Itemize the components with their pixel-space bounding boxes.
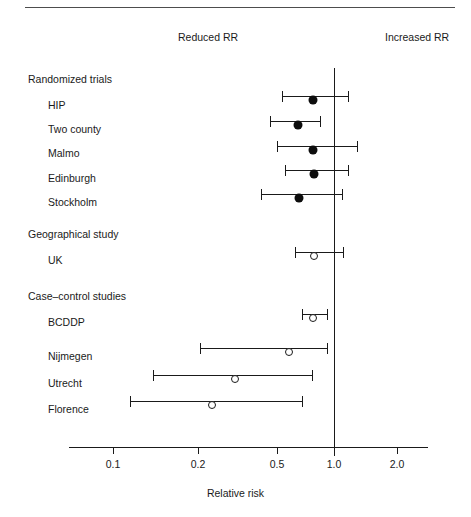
confidence-interval-cap bbox=[130, 396, 131, 407]
confidence-interval-cap bbox=[348, 165, 349, 176]
study-label: BCDDP bbox=[48, 316, 85, 328]
point-estimate-marker bbox=[309, 314, 317, 322]
group-heading: Geographical study bbox=[28, 228, 118, 240]
point-estimate-marker bbox=[231, 375, 239, 383]
study-label: Nijmegen bbox=[48, 350, 92, 362]
point-estimate-marker bbox=[208, 401, 216, 409]
confidence-interval-cap bbox=[153, 370, 154, 381]
confidence-interval-cap bbox=[327, 309, 328, 320]
confidence-interval-cap bbox=[200, 343, 201, 354]
confidence-interval-cap bbox=[295, 247, 296, 258]
point-estimate-marker bbox=[294, 121, 303, 130]
x-axis-tick-label: 2.0 bbox=[390, 458, 405, 470]
confidence-interval-cap bbox=[343, 247, 344, 258]
study-label: Edinburgh bbox=[48, 172, 96, 184]
confidence-interval-cap bbox=[327, 343, 328, 354]
study-label: Two county bbox=[48, 123, 101, 135]
point-estimate-marker bbox=[309, 96, 318, 105]
confidence-interval-bar bbox=[295, 252, 343, 253]
confidence-interval-bar bbox=[130, 401, 302, 402]
group-heading: Randomized trials bbox=[28, 73, 112, 85]
group-heading: Case–control studies bbox=[28, 290, 126, 302]
x-axis-line bbox=[69, 447, 428, 448]
x-axis-tick bbox=[113, 447, 114, 454]
study-label: HIP bbox=[48, 99, 66, 111]
confidence-interval-cap bbox=[348, 91, 349, 102]
x-axis-tick-label: 0.1 bbox=[106, 458, 121, 470]
point-estimate-marker bbox=[310, 252, 318, 260]
study-label: Utrecht bbox=[48, 377, 82, 389]
confidence-interval-bar bbox=[200, 348, 327, 349]
x-axis-tick bbox=[397, 447, 398, 454]
x-axis-tick bbox=[198, 447, 199, 454]
x-axis-tick-label: 0.2 bbox=[191, 458, 206, 470]
point-estimate-marker bbox=[295, 194, 304, 203]
confidence-interval-cap bbox=[282, 91, 283, 102]
study-label: Florence bbox=[48, 403, 89, 415]
x-axis-tick-label: 1.0 bbox=[327, 458, 342, 470]
confidence-interval-bar bbox=[277, 146, 357, 147]
confidence-interval-cap bbox=[342, 189, 343, 200]
confidence-interval-cap bbox=[302, 396, 303, 407]
null-reference-line bbox=[334, 68, 335, 456]
confidence-interval-cap bbox=[285, 165, 286, 176]
confidence-interval-cap bbox=[261, 189, 262, 200]
confidence-interval-cap bbox=[312, 370, 313, 381]
confidence-interval-cap bbox=[320, 116, 321, 127]
x-axis-tick-label: 0.5 bbox=[270, 458, 285, 470]
forest-plot-figure: Reduced RR Increased RR 0.10.20.51.02.0 … bbox=[0, 0, 471, 517]
point-estimate-marker bbox=[309, 146, 318, 155]
confidence-interval-cap bbox=[302, 309, 303, 320]
confidence-interval-cap bbox=[270, 116, 271, 127]
x-axis-tick bbox=[334, 447, 335, 454]
study-label: UK bbox=[48, 254, 63, 266]
point-estimate-marker bbox=[310, 170, 319, 179]
point-estimate-marker bbox=[285, 348, 293, 356]
study-label: Malmo bbox=[48, 147, 80, 159]
x-axis-tick bbox=[277, 447, 278, 454]
confidence-interval-cap bbox=[357, 141, 358, 152]
x-axis-title: Relative risk bbox=[0, 487, 471, 499]
confidence-interval-cap bbox=[277, 141, 278, 152]
study-label: Stockholm bbox=[48, 196, 97, 208]
